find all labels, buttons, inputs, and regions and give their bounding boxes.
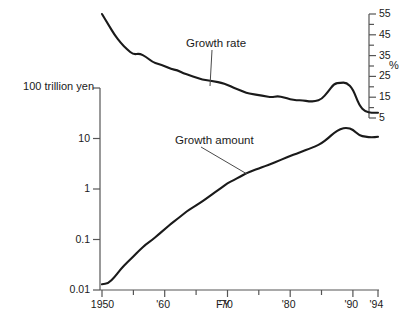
x-tick-label-90: '90: [345, 299, 359, 310]
left-tick-label-0_01: 0.01: [70, 284, 90, 295]
x-tick-label-60: '60: [156, 299, 170, 310]
right-tick-label-45: 45: [379, 29, 391, 40]
x-tick-label-94: '94: [370, 299, 384, 310]
right-axis-ticks: [369, 14, 376, 118]
right-tick-label-35: 35: [379, 50, 391, 61]
left-tick-label-1: 1: [84, 183, 90, 194]
series-line-growth-amount: [102, 128, 378, 284]
x-tick-label-70: '70: [219, 299, 233, 310]
annotation-growth-rate: Growth rate: [186, 38, 246, 50]
x-tick-label-80: '80: [282, 299, 296, 310]
leader-line: [201, 147, 247, 174]
right-tick-label-15: 15: [379, 91, 391, 102]
series-line-growth-rate: [102, 14, 378, 113]
left-axis-ticks: [93, 88, 100, 290]
chart-figure: 100 trillion yen % FY Growth rate Growth…: [0, 0, 411, 320]
annotation-growth-amount: Growth amount: [175, 135, 254, 147]
left-tick-label-0_1: 0.1: [75, 234, 90, 245]
x-axis-ticks: [102, 290, 378, 297]
right-tick-label-55: 55: [379, 8, 391, 19]
x-tick-label-1950: 1950: [91, 299, 114, 310]
left-axis-unit-label: 100 trillion yen: [6, 81, 94, 92]
right-tick-label-5: 5: [379, 112, 385, 123]
left-tick-label-10: 10: [78, 133, 90, 144]
right-tick-label-25: 25: [379, 70, 391, 81]
annotation-leader-lines: [201, 50, 247, 174]
